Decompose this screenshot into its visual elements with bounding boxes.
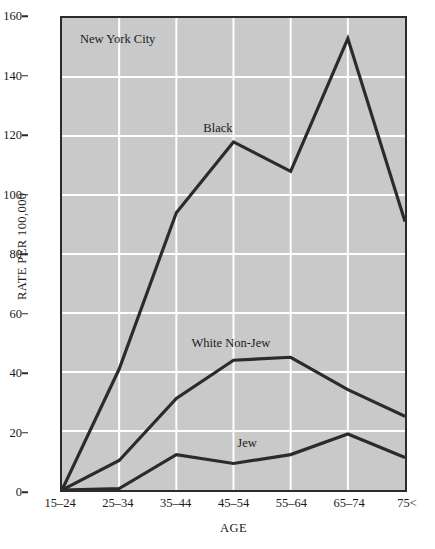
- y-axis-tick-mark: [22, 491, 28, 493]
- x-axis-tick-label: 25–34: [102, 496, 133, 511]
- x-axis-tick-label: 65–74: [334, 496, 365, 511]
- x-axis-tick-label: 35–44: [160, 496, 191, 511]
- series-line-white-non-jew: [62, 357, 405, 490]
- y-axis-tick-label: 120: [0, 128, 22, 143]
- y-axis-tick-mark: [22, 134, 28, 136]
- y-axis-tick-mark: [22, 194, 28, 196]
- y-axis-tick-label: 0: [0, 485, 22, 500]
- y-axis-tick-label: 80: [0, 247, 22, 262]
- y-axis-tick-mark: [22, 372, 28, 374]
- y-axis-tick-label: 20: [0, 425, 22, 440]
- y-axis-tick-label: 140: [0, 68, 22, 83]
- x-axis-tick-label: 15–24: [44, 496, 75, 511]
- y-axis-tick-label: 60: [0, 306, 22, 321]
- data-lines: [62, 18, 405, 490]
- x-axis-tick-label: 55–64: [276, 496, 307, 511]
- plot-area: New York City BlackWhite Non-JewJew: [60, 16, 407, 492]
- y-axis-tick-mark: [22, 313, 28, 315]
- y-axis-tick-label: 100: [0, 187, 22, 202]
- series-line-black: [62, 39, 405, 490]
- y-axis-tick-label: 160: [0, 9, 22, 24]
- y-axis-tick-mark: [22, 75, 28, 77]
- y-axis-tick-label: 40: [0, 366, 22, 381]
- chart-figure: RATE PER 100,000 New York City BlackWhit…: [0, 0, 435, 549]
- x-axis-tick-label: 75<: [397, 496, 417, 511]
- y-axis-tick-mark: [22, 15, 28, 17]
- x-axis-title: AGE: [60, 521, 407, 536]
- y-axis-tick-mark: [22, 432, 28, 434]
- y-axis-tick-mark: [22, 253, 28, 255]
- x-axis-tick-label: 45–54: [218, 496, 249, 511]
